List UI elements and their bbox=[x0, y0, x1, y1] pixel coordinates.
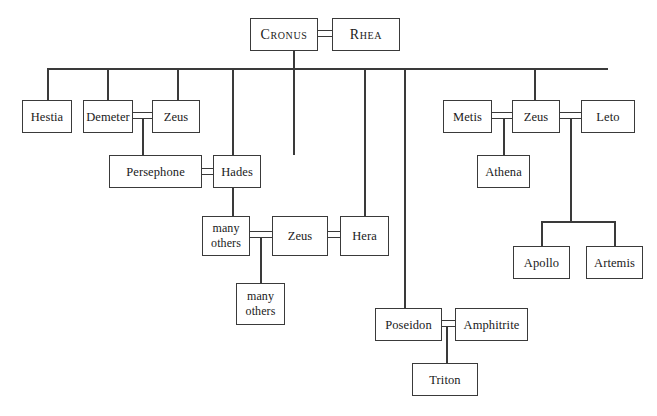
connector-to-hades bbox=[293, 68, 295, 155]
marriage-link-demeter-zeus bbox=[133, 112, 152, 119]
connector-sibling-bar bbox=[47, 68, 608, 70]
node-hades[interactable]: Hades bbox=[213, 155, 261, 188]
node-hestia[interactable]: Hestia bbox=[22, 100, 72, 133]
node-metis[interactable]: Metis bbox=[443, 100, 492, 133]
marriage-link-zeus-hera bbox=[328, 231, 340, 238]
genealogy-diagram: CronusRheaHestiaDemeterZeusPersephoneHad… bbox=[0, 0, 657, 416]
connector-to-apollo bbox=[541, 221, 543, 246]
marriage-link-persephone-hades bbox=[202, 168, 213, 175]
node-manyB[interactable]: many others bbox=[236, 283, 285, 325]
node-athena[interactable]: Athena bbox=[477, 155, 530, 188]
node-zeus1[interactable]: Zeus bbox=[152, 100, 200, 133]
node-amphitrite[interactable]: Amphitrite bbox=[455, 308, 528, 341]
node-artemis[interactable]: Artemis bbox=[586, 246, 643, 279]
node-zeus3[interactable]: Zeus bbox=[512, 100, 560, 133]
node-cronus[interactable]: Cronus bbox=[250, 18, 318, 51]
marriage-link-zeus-leto bbox=[560, 112, 581, 119]
node-demeter[interactable]: Demeter bbox=[83, 100, 133, 133]
connector-to-zeus2 bbox=[232, 68, 234, 216]
node-zeus2[interactable]: Zeus bbox=[272, 216, 328, 256]
marriage-link-metis-zeus bbox=[492, 112, 512, 119]
node-leto[interactable]: Leto bbox=[581, 100, 635, 133]
node-rhea[interactable]: Rhea bbox=[332, 18, 400, 51]
connector-athena-from-metis-zeus bbox=[503, 117, 505, 155]
marriage-link-cronus-rhea bbox=[318, 30, 332, 37]
connector-to-poseidon bbox=[404, 68, 406, 308]
node-persephone[interactable]: Persephone bbox=[109, 155, 202, 188]
node-hera[interactable]: Hera bbox=[340, 216, 389, 256]
connector-to-hestia bbox=[47, 68, 49, 100]
connector-to-zeus1 bbox=[177, 68, 179, 100]
node-poseidon[interactable]: Poseidon bbox=[375, 308, 442, 341]
connector-manyB-from-zeus2 bbox=[260, 236, 262, 283]
connector-to-demeter bbox=[107, 68, 109, 100]
marriage-link-manyothers-zeus bbox=[250, 231, 272, 238]
node-manyA[interactable]: many others bbox=[202, 216, 250, 256]
marriage-link-poseidon-amphitrite bbox=[442, 320, 455, 327]
connector-persephone-from-demeter-zeus bbox=[142, 117, 144, 155]
node-triton[interactable]: Triton bbox=[412, 363, 478, 396]
connector-to-hera bbox=[364, 68, 366, 216]
connector-triton-from-poseidon bbox=[446, 325, 448, 363]
node-apollo[interactable]: Apollo bbox=[513, 246, 570, 279]
connector-apollo-artemis-bar bbox=[541, 221, 614, 223]
connector-to-artemis bbox=[614, 221, 616, 246]
connector-to-zeus3 bbox=[534, 68, 536, 100]
connector-apollo-artemis-stem bbox=[570, 117, 572, 221]
